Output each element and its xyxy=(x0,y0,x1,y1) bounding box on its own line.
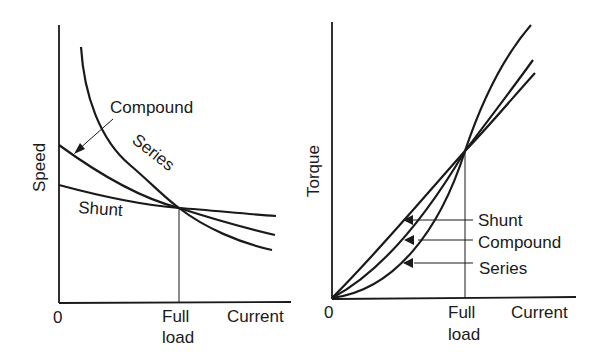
motor-characteristics-diagram: Compound Series Shunt Speed 0 Full load … xyxy=(0,0,609,364)
speed-origin-label: 0 xyxy=(53,308,62,327)
speed-fullload-label-1: Full xyxy=(162,307,189,326)
torque-x-axis xyxy=(332,297,576,299)
speed-x-axis xyxy=(59,302,291,303)
torque-y-label: Torque xyxy=(304,145,323,197)
torque-chart: Shunt Compound Series Torque 0 Full load… xyxy=(304,22,576,344)
label-series-right: Series xyxy=(479,259,527,278)
label-shunt: Shunt xyxy=(78,198,124,220)
speed-y-label: Speed xyxy=(30,143,49,192)
label-compound-right: Compound xyxy=(478,233,561,252)
torque-series-curve xyxy=(332,25,531,298)
label-shunt-right: Shunt xyxy=(478,211,523,230)
compound-pointer-line xyxy=(78,119,113,150)
speed-series-curve xyxy=(81,47,272,250)
speed-x-label: Current xyxy=(227,307,284,326)
torque-origin-label: 0 xyxy=(324,303,333,322)
label-series: Series xyxy=(129,130,179,175)
torque-fullload-label-1: Full xyxy=(448,303,475,322)
speed-chart: Compound Series Shunt Speed 0 Full load … xyxy=(30,25,291,347)
speed-fullload-label-2: load xyxy=(162,328,194,347)
label-compound: Compound xyxy=(110,98,193,117)
torque-x-label: Current xyxy=(511,303,568,322)
torque-fullload-label-2: load xyxy=(448,325,480,344)
